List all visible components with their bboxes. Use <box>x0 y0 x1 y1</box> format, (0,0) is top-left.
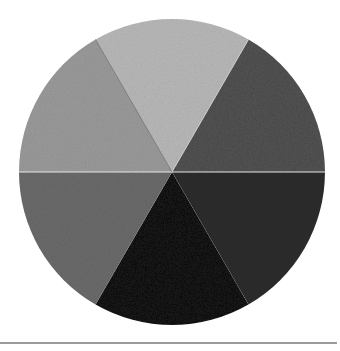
value-wheel <box>0 0 340 351</box>
baseline-rule <box>0 342 337 344</box>
